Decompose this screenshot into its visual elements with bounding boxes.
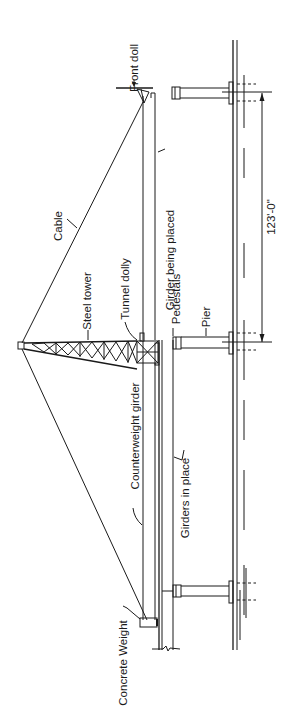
label-steel-tower: Steel tower	[81, 272, 93, 340]
tunnel-dolly	[137, 333, 159, 365]
svg-text:Steel tower: Steel tower	[81, 272, 93, 330]
ground-line	[233, 40, 244, 650]
label-pedestals: Pedestals	[170, 274, 182, 336]
girder-being-placed	[143, 93, 155, 340]
label-concrete-weight: Concrete Weight	[117, 606, 140, 706]
svg-text:Pier: Pier	[200, 307, 212, 328]
girders-in-place	[152, 340, 180, 651]
span-dimension: 123'-0"	[260, 93, 278, 342]
svg-text:Girders in place: Girders in place	[179, 458, 191, 539]
svg-text:Concrete Weight: Concrete Weight	[117, 619, 129, 705]
pier-middle	[173, 332, 272, 354]
svg-text:Pedestals: Pedestals	[170, 274, 182, 325]
svg-text:Cable: Cable	[52, 211, 64, 241]
label-counterweight-girder: Counterweight girder	[129, 382, 142, 525]
label-pier: Pier	[200, 307, 212, 336]
label-cable: Cable	[52, 211, 77, 241]
label-tunnel-dolly: Tunnel dolly	[119, 258, 137, 340]
span-dimension-label: 123'-0"	[265, 199, 277, 235]
girder-erection-diagram: 123'-0"	[0, 0, 287, 723]
steel-tower	[18, 341, 137, 369]
svg-text:Counterweight girder: Counterweight girder	[129, 382, 141, 489]
label-girders-in-place: Girders in place	[174, 450, 191, 538]
label-front-dolly: Front doll	[128, 44, 140, 92]
counterweight-girder	[143, 363, 155, 620]
pier-top	[172, 82, 272, 104]
svg-text:Tunnel dolly: Tunnel dolly	[119, 258, 131, 320]
